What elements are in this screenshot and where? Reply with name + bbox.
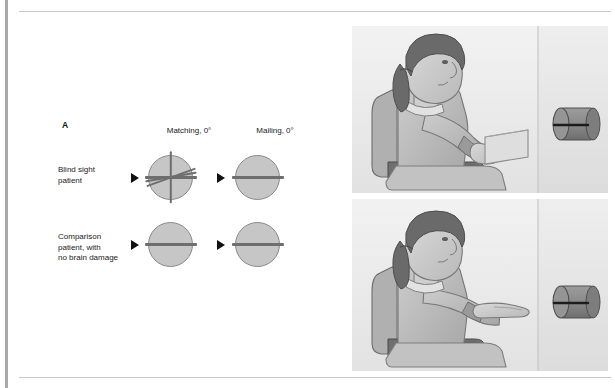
row-label-comparison-patient: Comparison patient, with no brain damage (58, 232, 132, 264)
row-label-blindsight-patient: Blind sight patient (58, 165, 124, 186)
page-left-rule (5, 0, 8, 388)
column-header-mailing: Mailing, 0° (233, 126, 317, 135)
figure-page: A Matching, 0° Mailing, 0° Blind sight p… (0, 0, 615, 388)
panel-b-illustration (352, 26, 608, 193)
column-header-matching: Matching, 0° (147, 126, 231, 135)
pointer-arrow-icon (217, 240, 225, 250)
page-bottom-rule (19, 377, 611, 378)
pointer-arrow-icon (131, 240, 139, 250)
panel-a: Matching, 0° Mailing, 0° Blind sight pat… (55, 112, 340, 307)
panel-c-illustration (352, 199, 608, 371)
page-top-rule (19, 11, 611, 12)
pointer-arrow-icon (131, 173, 139, 183)
clipped-header-text (28, 0, 588, 5)
pointer-arrow-icon (217, 173, 225, 183)
